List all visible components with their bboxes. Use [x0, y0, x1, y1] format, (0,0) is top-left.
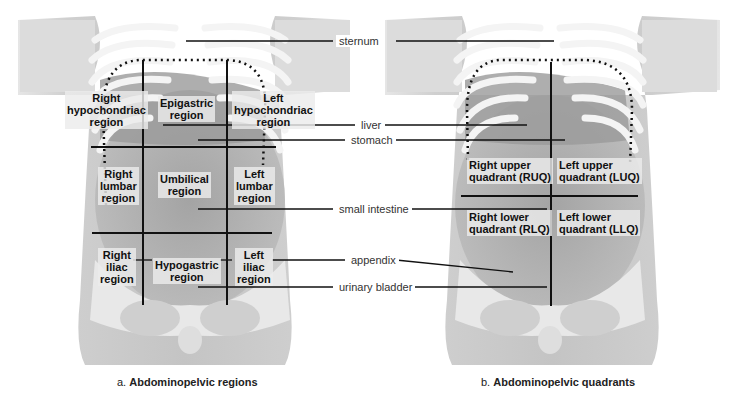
- callout-appendix: appendix: [348, 254, 399, 266]
- region-label-right-iliac: Right iliac region: [98, 248, 136, 286]
- callout-stomach: stomach: [348, 134, 396, 146]
- region-label-umbilical: Umbilical region: [158, 172, 211, 198]
- region-label-left-iliac: Left iliac region: [235, 248, 273, 286]
- callout-sternum: sternum: [336, 35, 382, 47]
- region-label-right-hypochondriac: Right hypochondriac region: [65, 91, 148, 129]
- caption-figure-b: b. Abdominopelvic quadrants: [481, 376, 635, 388]
- caption-figure-a: a. Abdominopelvic regions: [117, 376, 258, 388]
- quadrant-label-rlq: Right lower quadrant (RLQ): [467, 210, 552, 236]
- region-label-left-lumbar: Left lumbar region: [234, 167, 275, 205]
- quadrant-label-luq: Left upper quadrant (LUQ): [557, 158, 642, 184]
- torso-b: [385, 16, 720, 365]
- callout-liver: liver: [358, 119, 384, 131]
- region-label-epigastric: Epigastric region: [158, 96, 215, 122]
- quadrant-label-ruq: Right upper quadrant (RUQ): [467, 158, 553, 184]
- quadrant-label-llq: Left lower quadrant (LLQ): [557, 210, 640, 236]
- region-label-left-hypochondriac: Left hypochondriac region: [232, 91, 315, 129]
- region-label-hypogastric: Hypogastric region: [153, 258, 221, 284]
- callout-urinary-bladder: urinary bladder: [336, 281, 415, 293]
- region-label-right-lumbar: Right lumbar region: [98, 167, 139, 205]
- callout-small-intestine: small intestine: [336, 203, 412, 215]
